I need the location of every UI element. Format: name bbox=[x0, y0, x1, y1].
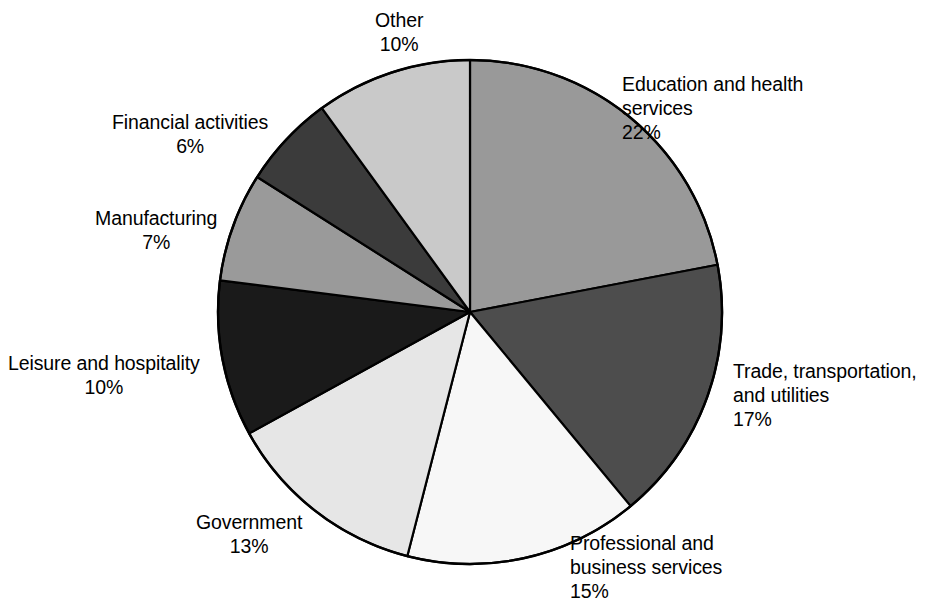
pie-slice-label-8: Other10% bbox=[375, 8, 423, 56]
pie-slice-label-name: Trade, transportation, and utilities bbox=[733, 359, 917, 407]
pie-slice-label-name: Other bbox=[375, 8, 423, 32]
pie-slice-label-percent: 15% bbox=[570, 579, 722, 603]
pie-slice-label-4: Government13% bbox=[196, 510, 302, 558]
pie-slice-label-name: Education and health services bbox=[622, 72, 803, 120]
pie-slice-label-5: Leisure and hospitality10% bbox=[8, 351, 200, 399]
pie-slice-label-name: Financial activities bbox=[112, 110, 268, 134]
pie-slice-label-name: Leisure and hospitality bbox=[8, 351, 200, 375]
pie-slice-label-name: Professional and business services bbox=[570, 531, 722, 579]
pie-slice-label-percent: 6% bbox=[112, 134, 268, 158]
pie-slice-label-name: Government bbox=[196, 510, 302, 534]
pie-slice-label-percent: 10% bbox=[375, 32, 423, 56]
pie-slice-label-1: Education and health services22% bbox=[622, 72, 803, 144]
pie-slice-label-percent: 10% bbox=[8, 375, 200, 399]
pie-slice-label-2: Trade, transportation, and utilities17% bbox=[733, 359, 917, 431]
pie-slice-label-percent: 7% bbox=[95, 230, 217, 254]
pie-chart-figure: Education and health services22%Trade, t… bbox=[0, 0, 935, 604]
pie-slice-label-percent: 22% bbox=[622, 120, 803, 144]
pie-slice-label-6: Manufacturing7% bbox=[95, 206, 217, 254]
pie-slice-label-7: Financial activities6% bbox=[112, 110, 268, 158]
pie-slice-label-name: Manufacturing bbox=[95, 206, 217, 230]
pie-slice-label-percent: 13% bbox=[196, 534, 302, 558]
pie-slice-label-percent: 17% bbox=[733, 407, 917, 431]
pie-slice-label-3: Professional and business services15% bbox=[570, 531, 722, 603]
